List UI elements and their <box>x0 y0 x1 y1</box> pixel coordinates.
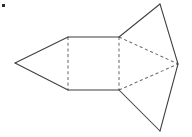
left-triangle-face <box>15 37 68 90</box>
figure-canvas <box>0 0 192 137</box>
face-fill-group <box>15 4 178 131</box>
net-diagram <box>0 0 192 137</box>
center-rectangle-face <box>68 37 119 90</box>
top-left-corner-mark <box>2 4 5 7</box>
